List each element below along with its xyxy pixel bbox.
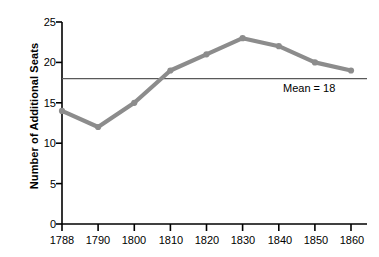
data-point-1850 (312, 59, 318, 65)
data-series-markers (59, 35, 354, 130)
chart-container: Number of Additional Seats 25 20 15 10 5… (0, 0, 379, 257)
data-point-1800 (131, 100, 137, 106)
x-ticks-group (62, 224, 351, 231)
data-point-1790 (95, 124, 101, 130)
y-ticks-group (56, 22, 62, 224)
data-point-1830 (240, 35, 246, 41)
data-point-1810 (167, 67, 173, 73)
data-point-1860 (348, 67, 354, 73)
plot-area (0, 0, 379, 257)
data-point-1840 (276, 43, 282, 49)
data-point-1820 (203, 51, 209, 57)
data-point-1788 (59, 108, 65, 114)
